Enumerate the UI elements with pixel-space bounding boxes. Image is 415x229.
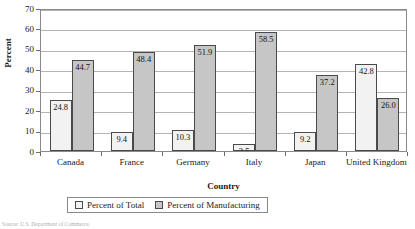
chart-legend: Percent of TotalPercent of Manufacturing: [67, 197, 268, 213]
bar: 51.9: [194, 45, 216, 151]
x-axis-category-label: Italy: [224, 157, 285, 168]
bar-value-label: 42.8: [356, 66, 376, 76]
x-axis-category-label: United Kingdom: [346, 157, 407, 168]
bar-value-label: 37.2: [317, 77, 337, 87]
gridline: [41, 92, 406, 93]
gridline: [41, 112, 406, 113]
x-axis-tick-mark: [101, 152, 102, 156]
gridline: [41, 133, 406, 134]
legend-swatch-icon: [75, 201, 83, 209]
legend-entry: Percent of Total: [75, 200, 144, 210]
bar: 9.2: [294, 132, 316, 151]
bar-value-label: 9.4: [112, 134, 132, 144]
bar: 26.0: [377, 98, 399, 151]
bar: 3.5: [233, 144, 255, 151]
x-axis-tick-mark: [285, 152, 286, 156]
bar: 9.4: [111, 132, 133, 151]
y-axis-tick-label: 70: [0, 5, 34, 14]
legend-label: Percent of Total: [87, 200, 144, 210]
bar-value-label: 24.8: [51, 102, 71, 112]
x-axis-title: Country: [40, 181, 407, 191]
plot-area: 24.844.79.448.410.351.93.558.59.237.242.…: [40, 9, 407, 152]
y-axis-tick-label: 0: [0, 148, 34, 157]
gridline: [41, 10, 406, 11]
bar: 48.4: [133, 52, 155, 151]
bar: 58.5: [255, 32, 277, 152]
bar: 10.3: [172, 130, 194, 151]
legend-entry: Percent of Manufacturing: [155, 200, 259, 210]
x-axis-tick-mark: [407, 152, 408, 156]
y-axis-tick-label: 50: [0, 45, 34, 54]
gridline: [41, 30, 406, 31]
x-axis-category-label: Canada: [40, 157, 101, 168]
x-axis-tick-mark: [40, 152, 41, 156]
source-note: Source: U.S. Department of Commerce.: [2, 221, 90, 228]
y-axis-tick-label: 60: [0, 25, 34, 34]
x-axis-category-label: Japan: [285, 157, 346, 168]
y-axis-tick-label: 40: [0, 66, 34, 75]
bar-chart-figure: Percent 010203040506070 24.844.79.448.41…: [0, 0, 415, 229]
bar-value-label: 48.4: [134, 54, 154, 64]
bar-value-label: 9.2: [295, 134, 315, 144]
legend-swatch-icon: [155, 201, 163, 209]
bar: 37.2: [316, 75, 338, 151]
bar: 24.8: [50, 100, 72, 151]
bar: 44.7: [72, 60, 94, 151]
bar-value-label: 44.7: [73, 62, 93, 72]
gridline: [41, 71, 406, 72]
bar-value-label: 26.0: [378, 100, 398, 110]
x-axis-tick-mark: [162, 152, 163, 156]
bar-value-label: 58.5: [256, 34, 276, 44]
x-axis-tick-mark: [346, 152, 347, 156]
bar: 42.8: [355, 64, 377, 151]
y-axis-tick-label: 30: [0, 86, 34, 95]
bar-value-label: 3.5: [234, 146, 254, 152]
gridline: [41, 51, 406, 52]
y-axis-tick-label: 20: [0, 107, 34, 116]
y-axis-tick-label: 10: [0, 127, 34, 136]
x-axis-category-label: France: [101, 157, 162, 168]
bar-value-label: 10.3: [173, 132, 193, 142]
legend-label: Percent of Manufacturing: [167, 200, 259, 210]
x-axis-tick-mark: [224, 152, 225, 156]
x-axis-category-label: Germany: [162, 157, 223, 168]
bar-value-label: 51.9: [195, 47, 215, 57]
